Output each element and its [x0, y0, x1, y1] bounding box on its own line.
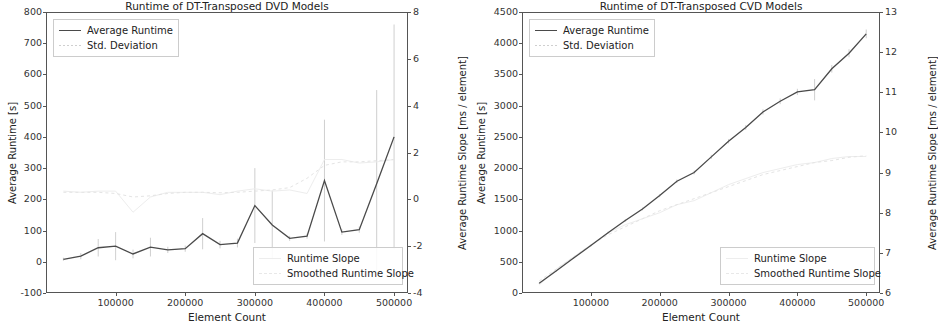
runtime-slope-curve-dvd	[63, 160, 394, 213]
legend-top-dvd: Average RuntimeStd. Deviation	[53, 19, 179, 57]
legend-label: Runtime Slope	[287, 253, 360, 264]
legend-key-faint2-icon	[726, 269, 748, 279]
average-runtime-curve-cvd	[539, 34, 866, 283]
legend-key-faint1-icon	[726, 254, 748, 264]
legend-key-dot-icon	[59, 41, 81, 51]
legend-bottom-dvd: Runtime SlopeSmoothed Runtime Slope	[253, 247, 403, 285]
legend-label: Average Runtime	[87, 25, 173, 36]
legend-label: Average Runtime	[563, 25, 649, 36]
chart-panel-dvd: Runtime of DT-Transposed DVD Models-1000…	[0, 0, 469, 325]
legend-row: Std. Deviation	[59, 38, 173, 53]
legend-row: Average Runtime	[535, 23, 649, 38]
legend-key-line-icon	[535, 26, 557, 36]
legend-key-faint1-icon	[259, 254, 281, 264]
legend-row: Runtime Slope	[726, 251, 869, 266]
legend-label: Runtime Slope	[754, 253, 827, 264]
legend-row: Runtime Slope	[259, 251, 397, 266]
legend-key-line-icon	[59, 26, 81, 36]
legend-row: Smoothed Runtime Slope	[726, 266, 869, 281]
figure-two-panel-runtime-charts: Runtime of DT-Transposed DVD Models-1000…	[0, 0, 938, 325]
legend-key-faint2-icon	[259, 269, 281, 279]
legend-top-cvd: Average RuntimeStd. Deviation	[529, 19, 655, 57]
average-runtime-curve-dvd	[63, 137, 394, 259]
legend-row: Smoothed Runtime Slope	[259, 266, 397, 281]
legend-label: Std. Deviation	[87, 40, 158, 51]
legend-bottom-cvd: Runtime SlopeSmoothed Runtime Slope	[720, 247, 875, 285]
legend-label: Smoothed Runtime Slope	[287, 268, 414, 279]
legend-key-dot-icon	[535, 41, 557, 51]
legend-label: Smoothed Runtime Slope	[754, 268, 881, 279]
legend-label: Std. Deviation	[563, 40, 634, 51]
legend-row: Average Runtime	[59, 23, 173, 38]
chart-panel-cvd: Runtime of DT-Transposed CVD Models05001…	[469, 0, 938, 325]
legend-row: Std. Deviation	[535, 38, 649, 53]
